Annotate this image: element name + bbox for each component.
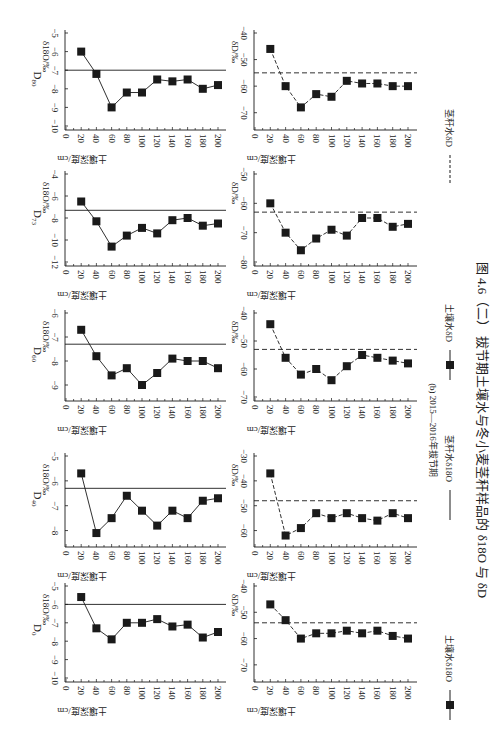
svg-text:100: 100	[327, 270, 337, 284]
legend-item: 土壤水δ18O	[444, 635, 455, 720]
data-point	[108, 371, 116, 379]
svg-text:20: 20	[76, 134, 86, 144]
data-point	[138, 224, 146, 232]
data-point	[77, 469, 85, 477]
data-point	[297, 103, 305, 111]
data-point	[92, 529, 100, 537]
svg-text:40: 40	[91, 270, 101, 280]
data-point	[266, 199, 274, 207]
data-point	[328, 629, 336, 637]
panel-D60-dD: −70−60−50−40020406080100120140160180200土…	[230, 306, 417, 436]
svg-text:−9: −9	[50, 103, 60, 113]
svg-text:−10: −10	[50, 233, 60, 248]
data-point	[199, 222, 207, 230]
data-point	[199, 634, 207, 642]
figure-caption: 图 4.6（二） 拔节期土壤水与冬小麦茎秆样品的 δ18O 与 δD	[475, 262, 490, 599]
svg-text:140: 140	[357, 551, 367, 565]
svg-text:100: 100	[327, 551, 337, 565]
svg-text:200: 200	[403, 551, 413, 565]
data-point	[153, 615, 161, 623]
y-axis-label: δD/‰	[230, 321, 240, 343]
data-point	[214, 364, 222, 372]
svg-text:100: 100	[137, 551, 147, 565]
svg-text:120: 120	[342, 270, 352, 284]
data-point	[358, 351, 366, 359]
data-point	[297, 524, 305, 532]
svg-text:80: 80	[122, 270, 132, 280]
svg-text:60: 60	[296, 551, 306, 561]
panel-D0-dD: −70−60−50−40020406080100120140160180200土…	[230, 579, 417, 717]
svg-text:200: 200	[213, 134, 223, 148]
svg-text:40: 40	[281, 551, 291, 561]
data-point	[343, 627, 351, 635]
data-point	[389, 632, 397, 640]
data-point	[108, 243, 116, 251]
svg-text:180: 180	[198, 270, 208, 284]
svg-text:−30: −30	[239, 449, 249, 464]
svg-text:−40: −40	[239, 26, 249, 41]
svg-text:200: 200	[403, 686, 413, 700]
data-point	[77, 198, 85, 206]
x-axis-label: 土壤深度/cm	[247, 154, 297, 165]
svg-text:40: 40	[91, 134, 101, 144]
data-point	[92, 624, 100, 632]
data-point	[214, 220, 222, 228]
svg-text:140: 140	[357, 405, 367, 419]
svg-text:20: 20	[265, 270, 275, 280]
svg-text:−9: −9	[50, 655, 60, 665]
y-axis-label: δ18O/‰	[41, 182, 51, 213]
panel-label: D73	[30, 210, 44, 225]
svg-text:160: 160	[372, 405, 382, 419]
svg-text:60: 60	[107, 134, 117, 144]
svg-text:120: 120	[342, 134, 352, 148]
svg-text:土壤水δ18O: 土壤水δ18O	[444, 635, 455, 682]
svg-text:100: 100	[327, 134, 337, 148]
svg-text:−40: −40	[239, 579, 249, 594]
svg-text:40: 40	[91, 551, 101, 561]
panel-D80-d18O: −10−9−8−7−6−5020406080100120140160180200…	[30, 28, 226, 165]
svg-text:60: 60	[296, 686, 306, 696]
panel-D80-dD: −70−60−50−40020406080100120140160180200土…	[230, 26, 417, 165]
data-point	[184, 214, 192, 222]
data-point	[168, 77, 176, 85]
data-point	[389, 82, 397, 90]
data-point	[214, 628, 222, 636]
panel-label: D0	[30, 624, 44, 636]
svg-text:40: 40	[281, 134, 291, 144]
svg-text:20: 20	[265, 686, 275, 696]
x-axis-label: 土壤深度/cm	[57, 706, 107, 717]
panel-D73-dD: −80−70−60−50020406080100120140160180200土…	[230, 167, 417, 301]
data-point	[328, 376, 336, 384]
svg-text:−8: −8	[50, 526, 60, 536]
data-point	[343, 509, 351, 517]
data-point	[184, 357, 192, 365]
svg-text:180: 180	[198, 686, 208, 700]
svg-text:180: 180	[388, 405, 398, 419]
data-point	[199, 85, 207, 93]
legend: 土壤水δ18O茎秆水δ18O土壤水δD茎秆水δD	[444, 109, 455, 720]
data-point	[138, 89, 146, 97]
svg-text:40: 40	[281, 686, 291, 696]
svg-text:−50: −50	[239, 167, 249, 182]
data-point	[214, 81, 222, 89]
svg-text:160: 160	[372, 270, 382, 284]
data-point	[404, 220, 412, 228]
data-point	[266, 45, 274, 53]
svg-text:0: 0	[61, 551, 71, 556]
svg-text:20: 20	[265, 551, 275, 561]
svg-text:−50: −50	[239, 499, 249, 514]
svg-text:140: 140	[167, 270, 177, 284]
isotope-figure: −10−9−8−7−6−5020406080100120140160180200…	[0, 0, 501, 747]
x-axis-label: 土壤深度/cm	[57, 571, 107, 582]
soil-water-series	[81, 52, 218, 108]
data-point	[168, 355, 176, 363]
svg-text:0: 0	[61, 405, 71, 410]
data-point	[266, 320, 274, 328]
y-axis-label: δ18O/‰	[41, 41, 51, 72]
x-axis-label: 土壤深度/cm	[57, 154, 107, 165]
data-point	[92, 352, 100, 360]
panel-D40-d18O: −8−7−6−5020406080100120140160180200土壤深度/…	[30, 451, 226, 582]
svg-text:20: 20	[76, 270, 86, 280]
data-point	[373, 354, 381, 362]
data-point	[297, 371, 305, 379]
